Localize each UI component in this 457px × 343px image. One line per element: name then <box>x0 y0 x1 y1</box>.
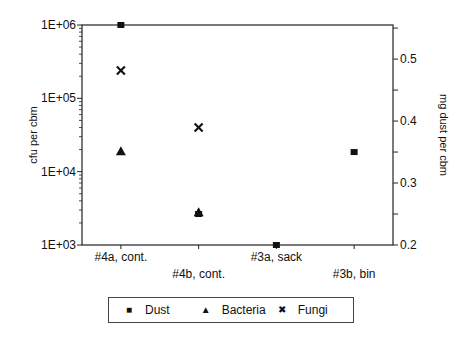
legend-label: Fungi <box>298 303 328 317</box>
bacteria-point <box>116 146 126 155</box>
dust-point <box>351 149 358 155</box>
x-tick-label: #4a, cont. <box>95 250 148 264</box>
legend-item-dust: ■ Dust <box>123 303 170 317</box>
y-right-tick-label: 0.3 <box>400 176 417 190</box>
x-tick-label: #4b, cont. <box>172 267 225 281</box>
x-tick-label: #3a, sack <box>251 250 303 264</box>
legend-label: Bacteria <box>222 303 266 317</box>
square-marker-icon: ■ <box>123 304 135 316</box>
x-marker-icon: ✖ <box>276 304 288 316</box>
data-points <box>116 22 358 248</box>
legend-label: Dust <box>145 303 170 317</box>
axis-ticks: 1E+031E+041E+051E+060.20.30.40.5#4a, con… <box>41 18 417 281</box>
fungi-point <box>195 124 203 132</box>
legend-item-bacteria: ▲ Bacteria <box>200 303 266 317</box>
y-tick-label: 1E+05 <box>41 91 76 105</box>
triangle-marker-icon: ▲ <box>200 304 212 316</box>
y-right-tick-label: 0.2 <box>400 238 417 252</box>
y-right-tick-label: 0.5 <box>400 52 417 66</box>
y-axis-title: cfu per cbm <box>27 106 39 163</box>
y-right-tick-label: 0.4 <box>400 114 417 128</box>
y-tick-label: 1E+06 <box>41 18 76 32</box>
y-tick-label: 1E+04 <box>41 165 76 179</box>
x-tick-label: #3b, bin <box>333 267 376 281</box>
plot-frame <box>82 25 393 245</box>
y-tick-label: 1E+03 <box>41 238 76 252</box>
chart: 1E+031E+041E+051E+060.20.30.40.5#4a, con… <box>0 0 457 343</box>
fungi-point <box>117 66 125 74</box>
dust-point <box>273 242 280 248</box>
legend: ■ Dust ▲ Bacteria ✖ Fungi <box>108 297 354 323</box>
dust-point <box>117 22 124 28</box>
y-axis-right-title: mg dust per cbm <box>438 94 450 176</box>
legend-item-fungi: ✖ Fungi <box>276 303 328 317</box>
